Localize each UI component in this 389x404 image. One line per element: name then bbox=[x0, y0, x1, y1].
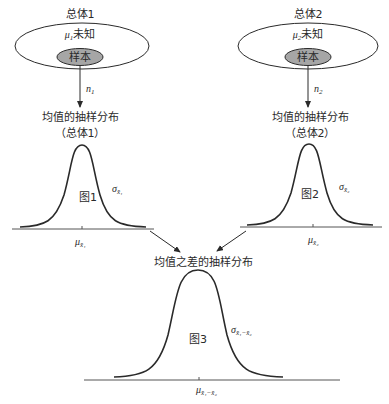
mu-1-label: μx̄₁ bbox=[74, 236, 86, 249]
distribution-1: 均值的抽样分布 （总体1） 图1 σx̄₁ μx̄₁ bbox=[12, 110, 154, 249]
arrow-converge-left-icon bbox=[150, 231, 180, 252]
normal-curve-1 bbox=[20, 145, 146, 227]
normal-curve-3 bbox=[114, 270, 283, 377]
figure-2-label: 图2 bbox=[301, 188, 319, 201]
population-1: 总体1 μ1未知 样本 n1 bbox=[15, 7, 149, 107]
sample-2-label: 样本 bbox=[297, 50, 319, 64]
sampling-distribution-diagram: 总体1 μ1未知 样本 n1 总体2 μ2未知 样本 n2 均值的抽样分布 （总… bbox=[0, 0, 389, 404]
population-1-title: 总体1 bbox=[66, 7, 95, 21]
population-2: 总体2 μ2未知 样本 n2 bbox=[238, 7, 378, 107]
distribution-3-title: 均值之差的抽样分布 bbox=[154, 255, 253, 269]
population-2-unknown-mean: μ2未知 bbox=[292, 27, 324, 42]
sample-size-1: n1 bbox=[86, 83, 95, 96]
arrow-converge-right-icon bbox=[217, 231, 246, 251]
sigma-1-label: σx̄₁ bbox=[112, 183, 122, 196]
figure-3-label: 图3 bbox=[189, 333, 207, 346]
figure-1-label: 图1 bbox=[79, 191, 97, 204]
distribution-1-subtitle: （总体1） bbox=[55, 126, 106, 140]
sample-1-label: 样本 bbox=[69, 50, 91, 64]
distribution-2-subtitle: （总体2） bbox=[285, 126, 336, 140]
population-1-unknown-mean: μ1未知 bbox=[64, 27, 96, 42]
sample-size-2: n2 bbox=[314, 83, 323, 96]
population-2-title: 总体2 bbox=[294, 7, 323, 21]
sigma-2-label: σx̄₂ bbox=[339, 181, 350, 194]
mu-3-label: μx̄₁−x̄₂ bbox=[195, 384, 217, 397]
distribution-1-title: 均值的抽样分布 bbox=[42, 110, 119, 124]
normal-curve-2 bbox=[247, 144, 373, 225]
mu-2-label: μx̄₂ bbox=[307, 234, 319, 247]
distribution-2-title: 均值的抽样分布 bbox=[272, 110, 349, 124]
sigma-3-label: σx̄₁−x̄₂ bbox=[231, 324, 252, 337]
distribution-2: 均值的抽样分布 （总体2） 图2 σx̄₂ μx̄₂ bbox=[240, 110, 382, 247]
distribution-3: 均值之差的抽样分布 图3 σx̄₁−x̄₂ μx̄₁−x̄₂ bbox=[84, 255, 340, 397]
